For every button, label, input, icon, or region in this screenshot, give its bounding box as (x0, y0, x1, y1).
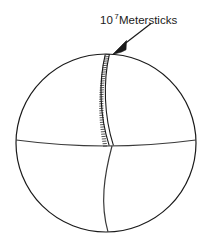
leader-line (123, 24, 152, 46)
sphere-diagram: 10 7 Metersticks (0, 0, 211, 239)
physics-figure: 10 7 Metersticks (0, 0, 211, 239)
annotation-unit-label: Metersticks (119, 14, 177, 26)
annotation-mantissa: 10 (100, 14, 113, 26)
leader-arrowhead (113, 41, 127, 55)
